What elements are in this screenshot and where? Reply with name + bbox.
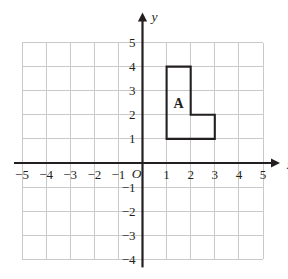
y-axis-tick-label: −1: [122, 180, 136, 195]
x-axis-tick-label: 4: [236, 167, 243, 182]
y-axis-tick-label: −3: [122, 228, 136, 243]
shape-label-a: A: [174, 96, 185, 111]
tick-labels-group: −5−4−3−2−11234554321−1−2−3−4O: [15, 35, 266, 267]
origin-label: O: [132, 166, 142, 181]
y-axis-tick-label: 4: [129, 59, 136, 74]
y-axis-label: y: [150, 9, 158, 24]
x-axis-tick-label: 3: [212, 167, 219, 182]
y-axis-tick-label: 3: [129, 83, 136, 98]
y-axis-tick-label: −4: [122, 252, 136, 267]
x-axis-tick-label: 5: [260, 167, 267, 182]
x-axis-tick-label: −3: [63, 167, 77, 182]
y-axis-tick-label: −2: [122, 204, 136, 219]
axes-group: [14, 13, 280, 268]
y-axis-arrowhead: [138, 13, 147, 22]
x-axis-arrowhead: [271, 158, 280, 167]
x-axis-tick-label: −2: [87, 167, 101, 182]
y-axis-tick-label: 2: [129, 107, 136, 122]
coordinate-plane-figure: −5−4−3−2−11234554321−1−2−3−4O A xy: [0, 0, 288, 279]
coordinate-plane-svg: −5−4−3−2−11234554321−1−2−3−4O A xy: [0, 0, 288, 279]
y-axis-tick-label: 1: [129, 131, 136, 146]
x-axis-tick-label: 2: [187, 167, 194, 182]
x-axis-tick-label: −5: [15, 167, 29, 182]
x-axis-tick-label: 1: [163, 167, 170, 182]
y-axis-tick-label: 5: [129, 35, 136, 50]
x-axis-label: x: [286, 157, 288, 172]
x-axis-tick-label: −4: [39, 167, 53, 182]
